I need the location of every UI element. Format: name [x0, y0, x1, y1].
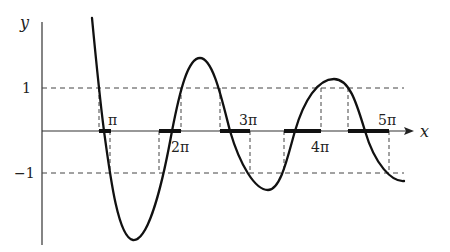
x-tick-3pi: 3π — [239, 112, 257, 128]
y-tick-neg1: −1 — [14, 165, 35, 181]
x-tick-4pi: 4π — [311, 139, 329, 155]
y-axis-label: y — [19, 13, 30, 32]
x-axis-label: x — [420, 122, 429, 141]
x-tick-5pi: 5π — [378, 112, 396, 128]
x-tick-2pi: 2π — [171, 139, 189, 155]
diagram-figure: y x 1 −1 π 2π 3π 4π 5π — [0, 0, 450, 252]
y-tick-1: 1 — [22, 80, 31, 96]
x-tick-pi: π — [108, 112, 117, 128]
